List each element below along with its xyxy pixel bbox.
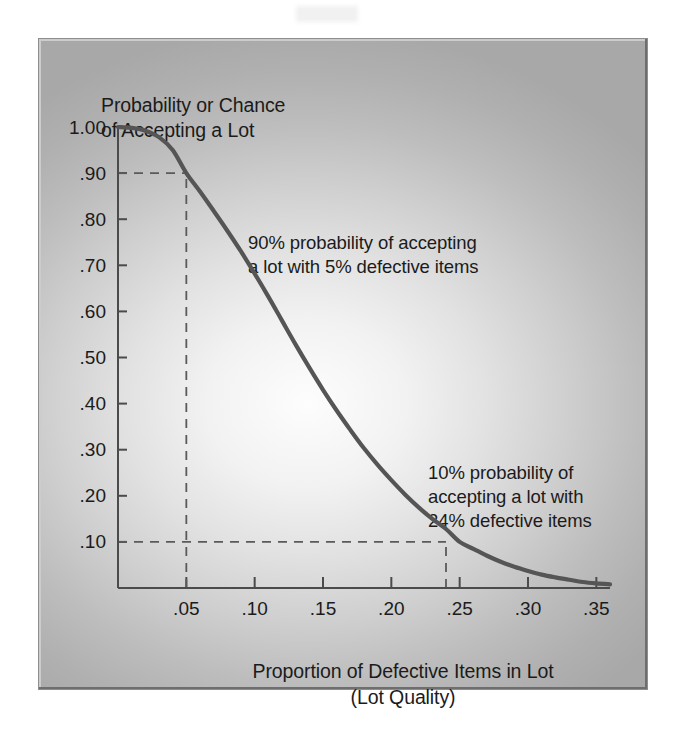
y-tick-label: .10 [80, 531, 106, 552]
page-background: Probability or Chance of Accepting a Lot… [0, 0, 681, 729]
y-tick-label: .60 [80, 301, 106, 322]
y-tick-label: .30 [80, 439, 106, 460]
x-tick-label: .05 [173, 598, 199, 619]
x-tick-label: .25 [446, 598, 472, 619]
oc-curve-plot: 1.00.90.80.70.60.50.40.30.20.10 .05.10.1… [0, 0, 681, 729]
x-tick-label: .30 [515, 598, 541, 619]
y-tick-label: .80 [80, 209, 106, 230]
oc-curve-line [118, 127, 610, 584]
y-tick-label: 1.00 [69, 117, 106, 138]
axis-tick-marks [118, 173, 596, 588]
x-tick-label: .10 [241, 598, 267, 619]
y-axis-tick-labels: 1.00.90.80.70.60.50.40.30.20.10 [69, 117, 106, 553]
y-tick-label: .90 [80, 163, 106, 184]
y-tick-label: .40 [80, 393, 106, 414]
y-tick-label: .20 [80, 485, 106, 506]
x-tick-label: .35 [583, 598, 609, 619]
y-tick-label: .50 [80, 347, 106, 368]
x-tick-label: .20 [378, 598, 404, 619]
x-axis-tick-labels: .05.10.15.20.25.30.35 [173, 598, 609, 619]
y-tick-label: .70 [80, 255, 106, 276]
x-tick-label: .15 [310, 598, 336, 619]
reference-guide-lines [118, 173, 446, 588]
